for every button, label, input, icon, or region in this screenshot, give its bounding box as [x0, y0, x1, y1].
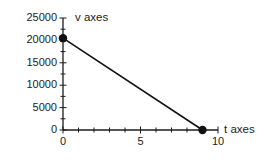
y-tick-label: 5000: [33, 101, 57, 113]
vt-chart: 05100500010000150002000025000 v axes t a…: [0, 0, 266, 164]
data-point-marker: [59, 34, 67, 42]
x-axis-label: t axes: [224, 123, 255, 135]
data-series-line: [63, 38, 203, 130]
x-tick-label: 0: [60, 135, 66, 147]
x-tick-label: 10: [212, 135, 224, 147]
y-tick-label: 15000: [26, 56, 57, 68]
y-tick-label: 20000: [26, 33, 57, 45]
data-point-marker: [198, 126, 206, 134]
y-tick-label: 0: [51, 123, 57, 135]
y-tick-label: 10000: [26, 78, 57, 90]
y-tick-label: 25000: [26, 11, 57, 23]
chart-canvas: 05100500010000150002000025000 v axes t a…: [0, 0, 266, 164]
x-tick-label: 5: [137, 135, 143, 147]
y-axis-label: v axes: [75, 11, 108, 23]
